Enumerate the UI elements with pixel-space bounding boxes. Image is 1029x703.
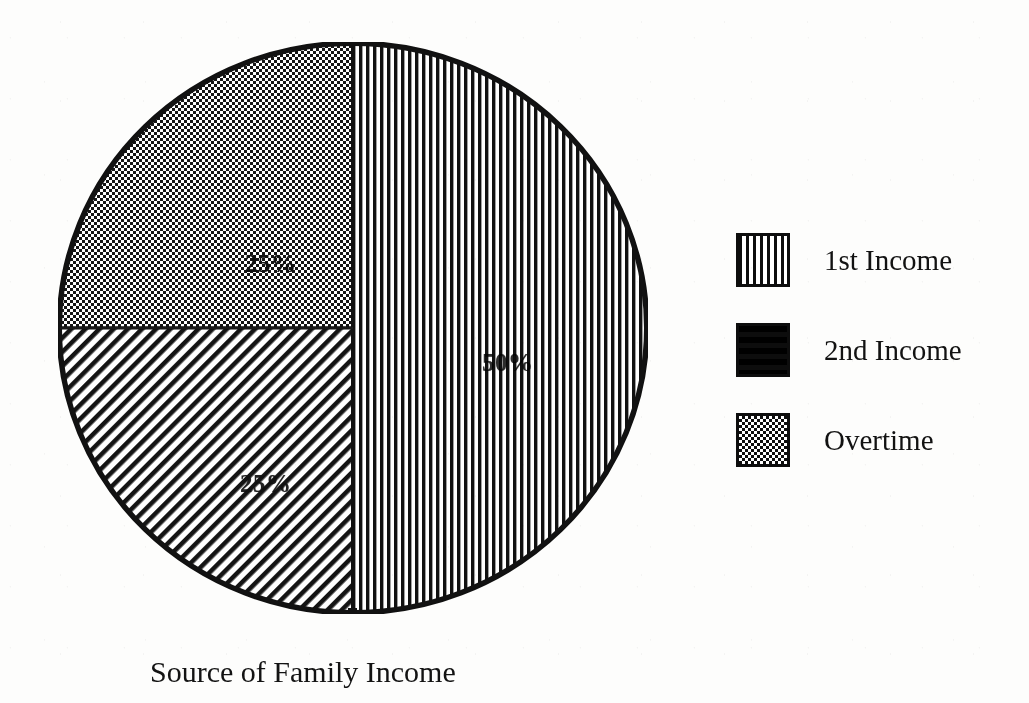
pie-chart: 25% 25% 50% xyxy=(58,42,648,614)
vertical-stripes-swatch-icon xyxy=(736,233,790,287)
legend-label-overtime: Overtime xyxy=(824,426,934,455)
pie-chart-figure: 25% 25% 50% 1st Income 2nd Income Overti… xyxy=(0,0,1029,703)
legend-item-overtime: Overtime xyxy=(736,412,1021,468)
pie-bottom-tick xyxy=(348,608,357,614)
chart-caption: Source of Family Income xyxy=(150,655,456,688)
legend-item-2nd-income: 2nd Income xyxy=(736,322,1021,378)
pie-chart-svg xyxy=(58,42,648,614)
pie-slice-overtime xyxy=(58,42,353,328)
fine-checker-swatch-icon xyxy=(736,413,790,467)
checkered-dots-swatch-icon xyxy=(736,323,790,377)
pie-label-second-income: 25% xyxy=(240,470,292,498)
legend-item-1st-income: 1st Income xyxy=(736,232,1021,288)
pie-label-overtime: 25% xyxy=(245,250,297,278)
pie-slice-second-income xyxy=(58,328,353,614)
pie-slice-first-income xyxy=(353,42,648,614)
chart-legend: 1st Income 2nd Income Overtime xyxy=(736,232,1021,468)
legend-label-1st-income: 1st Income xyxy=(824,246,952,275)
pie-label-first-income: 50% xyxy=(482,349,534,377)
legend-label-2nd-income: 2nd Income xyxy=(824,336,962,365)
